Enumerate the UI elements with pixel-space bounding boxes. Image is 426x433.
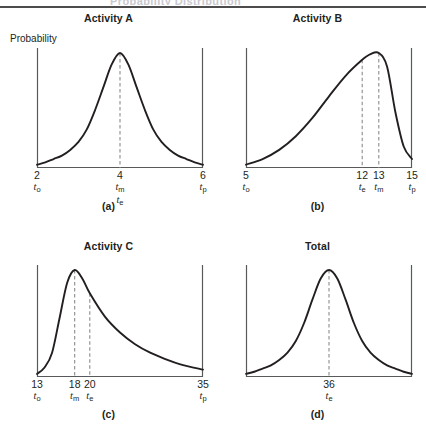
tick-value: 2 bbox=[33, 170, 40, 181]
panel-b-tick-0: 5to bbox=[242, 170, 249, 193]
panel-c-tick-2: 20te bbox=[84, 379, 96, 402]
panel-a-ticks: 2to4tmte6tp bbox=[4, 12, 213, 220]
tick-value: 4 bbox=[115, 170, 124, 181]
panel-a-caption: (a) bbox=[4, 200, 213, 212]
panel-d-ticks: 36te bbox=[213, 240, 422, 430]
tick-symbol: tm bbox=[69, 390, 81, 401]
panel-a-tick-2: 6tp bbox=[199, 170, 206, 193]
tick-value: 15 bbox=[406, 170, 418, 181]
tick-value: 36 bbox=[323, 379, 335, 390]
clipped-header-text: Probability Distribution bbox=[110, 0, 320, 5]
panel-c-caption: (c) bbox=[4, 408, 213, 420]
tick-symbol: to bbox=[33, 181, 40, 192]
panel-b-tick-3: 15tp bbox=[406, 170, 418, 193]
tick-value: 6 bbox=[199, 170, 206, 181]
tick-symbol: to bbox=[31, 390, 43, 401]
tick-value: 18 bbox=[69, 379, 81, 390]
tick-symbol: tm bbox=[115, 181, 124, 192]
panel-d-tick-0: 36te bbox=[323, 379, 335, 402]
panel-b-tick-1: 12te bbox=[356, 170, 368, 193]
tick-symbol: tp bbox=[406, 181, 418, 192]
header-rule bbox=[0, 6, 426, 8]
tick-value: 20 bbox=[84, 379, 96, 390]
tick-value: 13 bbox=[373, 170, 385, 181]
panel-total: Total 36te (d) bbox=[213, 240, 422, 430]
tick-symbol: tp bbox=[199, 181, 206, 192]
tick-symbol: tp bbox=[197, 390, 209, 401]
figure-root: Probability Distribution Activity A Prob… bbox=[0, 0, 426, 433]
tick-value: 13 bbox=[31, 379, 43, 390]
panel-d-caption: (d) bbox=[213, 408, 422, 420]
panel-activity-a: Activity A Probability 2to4tmte6tp (a) bbox=[4, 12, 213, 220]
panel-a-tick-0: 2to bbox=[33, 170, 40, 193]
panel-activity-b: Activity B 5to12te13tm15tp (b) bbox=[213, 12, 422, 220]
tick-symbol: tm bbox=[373, 181, 385, 192]
panel-c-tick-0: 13to bbox=[31, 379, 43, 402]
tick-symbol: te bbox=[356, 181, 368, 192]
panel-c-tick-3: 35tp bbox=[197, 379, 209, 402]
panel-b-tick-2: 13tm bbox=[373, 170, 385, 193]
panel-activity-c: Activity C 13to18tm20te35tp (c) bbox=[4, 240, 213, 430]
tick-symbol: te bbox=[84, 390, 96, 401]
tick-symbol: to bbox=[242, 181, 249, 192]
tick-value: 12 bbox=[356, 170, 368, 181]
tick-value: 35 bbox=[197, 379, 209, 390]
panel-c-tick-1: 18tm bbox=[69, 379, 81, 402]
tick-symbol: te bbox=[323, 390, 335, 401]
panel-b-ticks: 5to12te13tm15tp bbox=[213, 12, 422, 220]
panel-b-caption: (b) bbox=[213, 200, 422, 212]
panel-c-ticks: 13to18tm20te35tp bbox=[4, 240, 213, 430]
tick-value: 5 bbox=[242, 170, 249, 181]
